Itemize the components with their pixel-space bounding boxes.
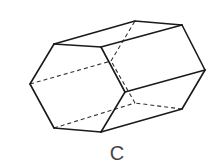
visible-edge (182, 25, 205, 70)
hidden-edges (30, 21, 182, 128)
hexagonal-prism-diagram: C (0, 0, 212, 163)
hidden-edge (54, 103, 135, 128)
visible-edge (135, 21, 182, 25)
visible-edges (30, 21, 205, 132)
visible-edge (30, 84, 54, 128)
visible-edge (101, 25, 182, 47)
hidden-edge (135, 103, 182, 109)
visible-edge (54, 128, 101, 132)
visible-edge (125, 70, 205, 92)
visible-edge (101, 47, 125, 92)
visible-edge (54, 44, 101, 47)
figure-label: C (110, 142, 124, 163)
